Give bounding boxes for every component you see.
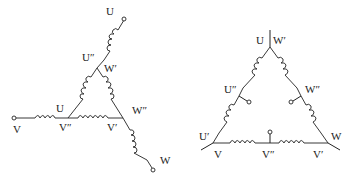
bottom-left-coil bbox=[213, 141, 270, 144]
label-u-dprime: U″ bbox=[82, 51, 95, 63]
bottom-right-lead bbox=[328, 143, 340, 150]
label-w-bottom: W bbox=[160, 154, 171, 166]
left-extension-coil bbox=[16, 116, 68, 119]
bottom-right-coil bbox=[270, 141, 328, 144]
right-extension-coil bbox=[123, 118, 152, 168]
right-upper-coil bbox=[270, 47, 301, 96]
terminal-u-dprime bbox=[247, 100, 251, 104]
top-coil bbox=[97, 20, 124, 68]
terminal-u-top bbox=[122, 17, 126, 21]
label-w-right: W bbox=[331, 130, 342, 142]
bottom-coil bbox=[68, 116, 123, 119]
label-v-prime: V′ bbox=[107, 121, 117, 133]
label-u-left: U bbox=[56, 102, 64, 114]
label-v-dprime: V″ bbox=[59, 121, 72, 133]
left-lower-coil bbox=[213, 96, 239, 143]
right-lower-coil bbox=[301, 96, 328, 143]
label-w-dprime: W″ bbox=[132, 104, 147, 116]
left-tap-lead bbox=[239, 96, 247, 101]
label-w-dprime-right: W″ bbox=[305, 83, 320, 95]
right-side-coil bbox=[97, 68, 123, 118]
label-v-bottom-left: V bbox=[214, 148, 222, 160]
bottom-left-lead bbox=[201, 143, 213, 150]
terminal-v-left bbox=[12, 116, 16, 120]
label-v-left: V bbox=[13, 123, 21, 135]
label-u-dprime-right: U″ bbox=[224, 83, 237, 95]
right-tap-lead bbox=[293, 96, 301, 101]
label-w-prime-top: W′ bbox=[273, 34, 286, 46]
left-upper-coil bbox=[239, 47, 270, 96]
label-v-prime-bottom: V′ bbox=[313, 148, 323, 160]
terminal-v-dprime bbox=[268, 130, 272, 134]
winding-diagrams: U U″ W′ U V″ W″ V′ V W U W′ U″ W″ bbox=[0, 0, 356, 180]
label-u-top-right: U bbox=[256, 34, 264, 46]
label-v-dprime-bottom: V″ bbox=[262, 148, 275, 160]
label-u-top: U bbox=[106, 5, 114, 17]
terminal-w-dprime bbox=[289, 100, 293, 104]
left-diagram: U U″ W′ U V″ W″ V′ V W bbox=[12, 5, 171, 172]
left-side-coil bbox=[68, 68, 97, 118]
terminal-w-bottom bbox=[151, 168, 155, 172]
label-u-prime: U′ bbox=[199, 130, 209, 142]
right-diagram: U W′ U″ W″ U′ V V″ V′ W bbox=[199, 30, 342, 160]
label-w-prime: W′ bbox=[104, 62, 117, 74]
